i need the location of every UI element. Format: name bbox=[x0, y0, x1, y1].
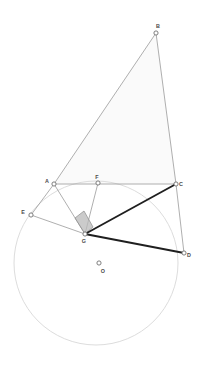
point-label-D: D bbox=[187, 252, 191, 258]
point-marker-D[interactable] bbox=[182, 251, 186, 255]
point-label-E: E bbox=[21, 209, 25, 215]
segment-gd bbox=[85, 234, 184, 253]
point-label-G: G bbox=[82, 238, 86, 244]
point-label-B: B bbox=[156, 23, 160, 29]
geometry-figure-canvas: A B C D E F G O bbox=[0, 0, 207, 371]
point-marker-G[interactable] bbox=[83, 232, 87, 236]
point-marker-E[interactable] bbox=[29, 213, 33, 217]
point-label-O: O bbox=[101, 268, 105, 274]
segment-cd bbox=[176, 184, 184, 253]
point-label-F: F bbox=[95, 174, 99, 180]
segment-ae bbox=[31, 184, 54, 215]
thick-segments-group bbox=[85, 184, 184, 253]
segment-gc bbox=[85, 184, 176, 234]
circumscribed-circle bbox=[14, 181, 178, 345]
point-marker-F[interactable] bbox=[96, 181, 100, 185]
point-marker-C[interactable] bbox=[174, 182, 178, 186]
triangle-abc-fill bbox=[54, 33, 176, 184]
point-label-A: A bbox=[45, 178, 49, 184]
point-marker-B[interactable] bbox=[154, 31, 158, 35]
geometry-svg: A B C D E F G O bbox=[0, 0, 207, 371]
point-marker-A[interactable] bbox=[52, 182, 56, 186]
point-marker-O[interactable] bbox=[97, 261, 101, 265]
point-label-C: C bbox=[179, 181, 183, 187]
